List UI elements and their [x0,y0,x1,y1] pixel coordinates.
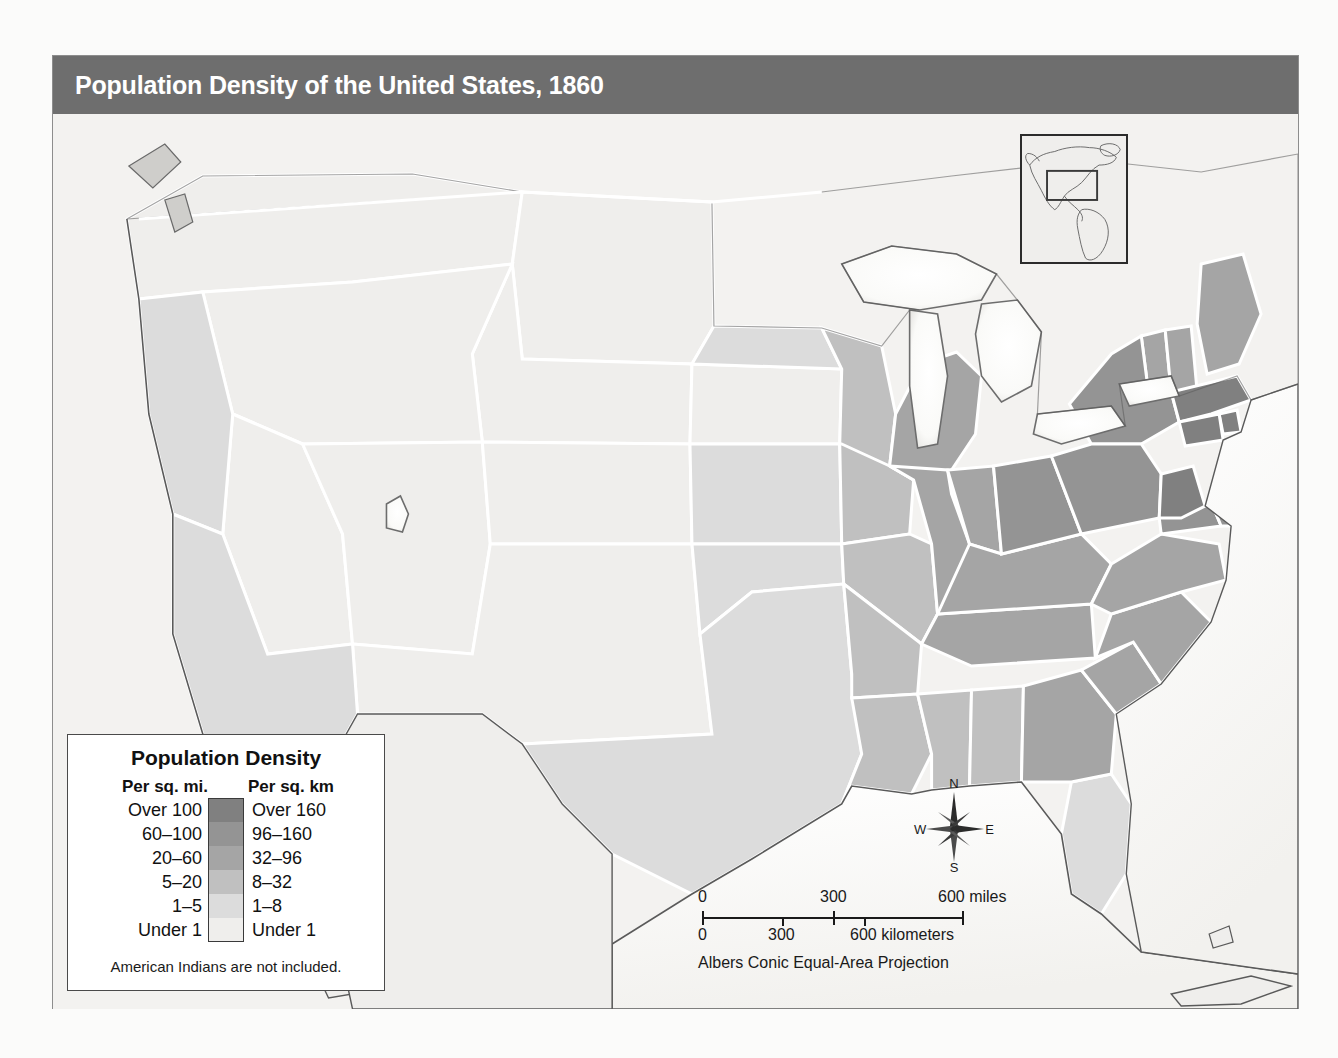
scale-km-0: 0 [698,926,707,944]
legend-row[interactable]: Over 100 Over 160 [84,798,368,822]
region-idaho-montana [203,264,513,444]
map-figure: Population Density of the United States,… [52,55,1299,1009]
compass-label-south: S [950,860,959,875]
region-colorado-territory [482,442,692,544]
scale-km-600: 600 kilometers [850,926,954,944]
region-dakota-territory [512,192,714,364]
legend-value-km: Over 160 [244,800,368,821]
map-scale-bar: 0 300 600 miles 0 300 600 kilometers Alb… [698,888,1028,976]
scale-tick-start [702,911,704,925]
scale-km-300: 300 [768,926,795,944]
region-alabama [970,686,1024,786]
scale-axis [698,911,1028,925]
legend-column-headers: Per sq. mi. Per sq. km [68,777,384,797]
inset-map-svg [1022,136,1126,262]
legend-value-km: 96–160 [244,824,368,845]
compass-rose-icon: N S W E [908,774,1000,876]
legend-row[interactable]: 20–60 32–96 [84,846,368,870]
legend-value-km: 1–8 [244,896,368,917]
scale-kilometers-labels: 0 300 600 kilometers [698,926,1028,948]
legend-heading: Population Density [68,746,384,770]
scale-mi-0: 0 [698,888,707,906]
legend-value-mi: Over 100 [84,800,208,821]
scale-tick-km-600 [864,917,866,926]
compass-star [926,792,984,862]
scale-tick-end [962,911,964,925]
scale-tick-km-300 [782,917,784,926]
legend-row[interactable]: Under 1 Under 1 [84,918,368,942]
compass-rose: N S W E [908,774,1000,876]
legend-swatch [208,798,244,822]
legend-header-per-sq-km: Per sq. km [244,777,368,797]
legend-value-mi: 20–60 [84,848,208,869]
region-nebraska-state [690,364,842,444]
legend-value-km: 32–96 [244,848,368,869]
americas-locator-inset[interactable] [1020,134,1128,264]
legend-value-km: Under 1 [244,920,368,941]
map-title-bar: Population Density of the United States,… [53,56,1298,114]
scale-mi-600: 600 miles [938,888,1006,906]
legend-value-mi: 60–100 [84,824,208,845]
legend-swatch [208,894,244,918]
legend-footnote: American Indians are not included. [68,958,384,975]
region-minnesota [692,326,842,369]
scale-mi-300: 300 [820,888,847,906]
legend-value-mi: 5–20 [84,872,208,893]
legend-class-list: Over 100 Over 160 60–100 96–160 20–60 32… [68,798,384,942]
legend-row[interactable]: 1–5 1–8 [84,894,368,918]
page-title: Population Density of the United States,… [75,71,604,100]
legend-header-per-sq-mi: Per sq. mi. [84,777,208,797]
region-kansas [690,444,842,544]
map-projection-label: Albers Conic Equal-Area Projection [698,954,1028,972]
legend-value-km: 8–32 [244,872,368,893]
legend-row[interactable]: 60–100 96–160 [84,822,368,846]
legend-swatch [208,822,244,846]
map-legend[interactable]: Population Density Per sq. mi. Per sq. k… [67,734,385,991]
scale-tick-mid [833,911,835,925]
legend-swatch [208,870,244,894]
compass-label-east: E [985,822,994,837]
scale-miles-labels: 0 300 600 miles [698,888,1028,910]
legend-value-mi: 1–5 [84,896,208,917]
legend-row[interactable]: 5–20 8–32 [84,870,368,894]
legend-swatch [208,846,244,870]
compass-label-north: N [949,776,958,791]
legend-header-spacer [208,777,244,797]
legend-value-mi: Under 1 [84,920,208,941]
compass-label-west: W [914,822,927,837]
legend-swatch [208,918,244,942]
